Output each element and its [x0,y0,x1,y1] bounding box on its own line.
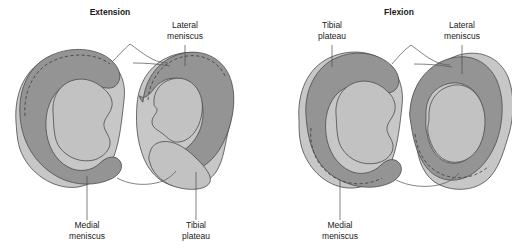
annotation-label-line1: Tibial [322,20,342,30]
annotation-label-line2: meniscus [322,231,358,241]
annotation-label-line1: Medial [74,220,99,230]
tibial-plateau-diagram: Extension [0,0,512,252]
panel-title-flexion: Flexion [384,7,414,17]
panel-flexion: Flexion Ti [299,7,512,241]
annotation-label-line2: meniscus [167,31,203,41]
lateral-compartment-extension [136,52,233,189]
annotation-label-line1: Lateral [172,20,198,30]
annotation-label-line1: Medial [327,220,352,230]
articular-surface-medial-ext [53,79,112,161]
annotation-label-line1: Lateral [449,20,475,30]
articular-surface-lateral-flex [428,85,485,162]
annotation-medial-meniscus-flex: Medial meniscus [322,181,358,241]
annotation-label-line2: plateau [182,231,210,241]
medial-compartment-extension [16,49,125,187]
panel-extension: Extension [16,7,234,241]
articular-surface-medial-flex [336,81,395,164]
intercondylar-eminence-curve-ext [112,44,168,63]
annotation-label-line2: meniscus [444,31,480,41]
lateral-compartment-flexion [410,53,512,189]
panel-title-extension: Extension [90,7,131,17]
annotation-label-line2: meniscus [69,231,105,241]
annotation-label-line2: plateau [318,31,346,41]
medial-compartment-flexion [299,52,403,188]
annotation-label-line1: Tibial [186,220,206,230]
